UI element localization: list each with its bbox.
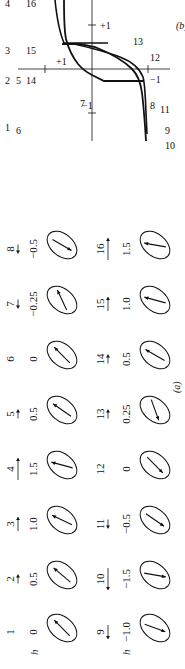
state-cell: 31.0 <box>4 501 82 540</box>
state-number: 14 <box>94 353 106 365</box>
state-cell: 120 <box>94 446 175 485</box>
panel-b-label: (b) <box>176 20 185 32</box>
state-cell: 10 <box>4 609 82 648</box>
row-label-h-bottom: h <box>120 649 132 655</box>
m-tick-minus1: −1 <box>150 74 161 85</box>
state-grid: 1020.531.041.550.5607−0.258−0.59−1.010−1… <box>4 226 175 648</box>
field-value: 1.5 <box>120 242 132 256</box>
curve-point-label: 9 <box>165 125 170 136</box>
field-value: −0.25 <box>27 291 39 317</box>
curve-point-label: 6 <box>16 125 21 136</box>
state-cell: 8−0.5 <box>4 226 82 265</box>
state-cell: 10−1.5 <box>94 556 175 595</box>
field-value: 0.5 <box>27 572 39 586</box>
curve-point-label: 14 <box>26 75 36 86</box>
h-tick-plus1: +1 <box>100 20 111 31</box>
field-value: 0.5 <box>27 407 39 421</box>
state-number: 9 <box>94 629 106 635</box>
field-value: 1.0 <box>120 297 132 311</box>
state-number: 4 <box>4 466 16 472</box>
curve-point-label: 15 <box>26 45 36 56</box>
curve-point-label: 3 <box>5 45 10 56</box>
field-value: −0.5 <box>120 514 132 534</box>
hysteresis-plot <box>18 0 170 141</box>
state-number: 12 <box>94 464 106 475</box>
state-cell: 11−0.5 <box>94 501 175 540</box>
field-value: 1.0 <box>27 517 39 531</box>
field-value: 0 <box>27 356 39 362</box>
state-cell: 60 <box>4 336 82 375</box>
curve-point-label: 16 <box>26 0 36 9</box>
state-cell: 140.5 <box>94 336 175 375</box>
state-number: 2 <box>4 576 16 582</box>
curve-point-label: 8 <box>150 100 155 111</box>
state-number: 13 <box>94 408 106 420</box>
state-cell: 41.5 <box>4 446 82 485</box>
curve-point-label: 7 <box>80 98 85 109</box>
state-number: 8 <box>4 246 16 252</box>
field-value: 0 <box>27 629 39 635</box>
curve-point-label: 1 <box>5 122 10 133</box>
field-value: −1.0 <box>120 622 132 642</box>
curve-point-label: 11 <box>160 104 170 115</box>
field-value: −1.5 <box>120 569 132 589</box>
state-number: 16 <box>94 243 106 255</box>
figure-canvas: h h 1020.531.041.550.5607−0.258−0.59−1.0… <box>0 0 185 669</box>
curve-point-label: 10 <box>165 140 175 151</box>
state-number: 5 <box>4 411 16 417</box>
curve-point-label: 2 <box>5 75 10 86</box>
state-number: 1 <box>4 629 16 635</box>
panel-a-label: (a) <box>171 381 183 393</box>
state-number: 15 <box>94 298 106 310</box>
state-number: 6 <box>4 356 16 362</box>
m-tick-plus1: +1 <box>56 56 67 67</box>
state-cell: 151.0 <box>94 281 175 320</box>
curve-point-label: 13 <box>133 36 143 47</box>
curve-point-label: 4 <box>5 0 10 9</box>
field-value: 1.5 <box>27 462 39 476</box>
field-value: 0.5 <box>120 352 132 366</box>
state-number: 10 <box>94 573 106 585</box>
state-number: 3 <box>4 521 16 527</box>
field-value: −0.5 <box>27 239 39 259</box>
state-number: 11 <box>94 519 106 530</box>
row-label-h-top: h <box>28 649 40 655</box>
field-value: 0 <box>120 466 132 472</box>
state-number: 7 <box>4 301 16 307</box>
state-cell: 161.5 <box>94 226 175 265</box>
curve-point-label: 12 <box>150 52 160 63</box>
state-cell: 20.5 <box>4 556 82 595</box>
curve-point-label: 5 <box>16 75 21 86</box>
state-cell: 9−1.0 <box>94 609 175 648</box>
rotated-figure: h h 1020.531.041.550.5607−0.258−0.59−1.0… <box>0 0 185 669</box>
state-cell: 7−0.25 <box>4 281 82 320</box>
state-cell: 130.25 <box>94 391 175 430</box>
state-cell: 50.5 <box>4 391 82 430</box>
field-value: 0.25 <box>120 404 132 424</box>
